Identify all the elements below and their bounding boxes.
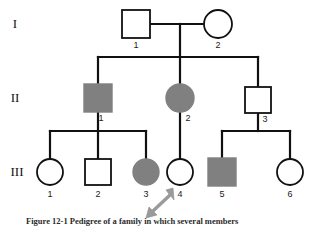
arrow-glyph bbox=[146, 188, 174, 218]
symbol-square-affected bbox=[84, 84, 112, 112]
individual-iii-3[interactable]: 3 bbox=[133, 159, 159, 199]
individual-iii-2[interactable]: 2 bbox=[85, 159, 111, 199]
individual-number-label: 1 bbox=[47, 189, 52, 199]
individual-number-label: 1 bbox=[133, 40, 138, 50]
symbol-circle-unaffected bbox=[37, 159, 63, 185]
symbol-circle-unaffected bbox=[167, 159, 193, 185]
generation-label-i: I bbox=[13, 16, 17, 31]
individual-i-1[interactable]: 1 bbox=[122, 10, 150, 50]
individual-number-label: 1 bbox=[98, 113, 103, 123]
symbol-square-affected bbox=[208, 158, 236, 186]
individual-number-label: 4 bbox=[177, 189, 182, 199]
individual-number-label: 3 bbox=[262, 114, 267, 124]
individual-iii-1[interactable]: 1 bbox=[37, 159, 63, 199]
symbol-square-unaffected bbox=[245, 87, 271, 113]
symbol-square-unaffected bbox=[122, 10, 150, 38]
symbol-circle-unaffected bbox=[204, 10, 232, 38]
individual-i-2[interactable]: 2 bbox=[204, 10, 232, 50]
pedigree-figure: I II III 1 2 1 2 3 1 bbox=[0, 0, 312, 226]
symbol-square-unaffected bbox=[85, 159, 111, 185]
symbol-circle-affected bbox=[166, 84, 194, 112]
individual-number-label: 2 bbox=[95, 189, 100, 199]
individual-number-label: 2 bbox=[185, 113, 190, 123]
individual-number-label: 2 bbox=[215, 40, 220, 50]
individual-ii-1[interactable]: 1 bbox=[84, 84, 112, 123]
individual-number-label: 6 bbox=[287, 189, 292, 199]
generation-label-iii: III bbox=[11, 164, 24, 179]
figure-caption: Figure 12-1 Pedigree of a family in whic… bbox=[26, 216, 306, 226]
pedigree-diagram: I II III 1 2 1 2 3 1 bbox=[0, 0, 312, 226]
individual-iii-6[interactable]: 6 bbox=[277, 159, 303, 199]
symbol-circle-unaffected bbox=[277, 159, 303, 185]
individual-iii-5[interactable]: 5 bbox=[208, 158, 236, 199]
individual-number-label: 3 bbox=[143, 189, 148, 199]
generation-labels: I II III bbox=[11, 16, 24, 179]
symbol-circle-affected bbox=[133, 159, 159, 185]
generation-label-ii: II bbox=[11, 90, 20, 105]
individual-number-label: 5 bbox=[219, 189, 224, 199]
proband-arrow-icon bbox=[146, 188, 174, 218]
